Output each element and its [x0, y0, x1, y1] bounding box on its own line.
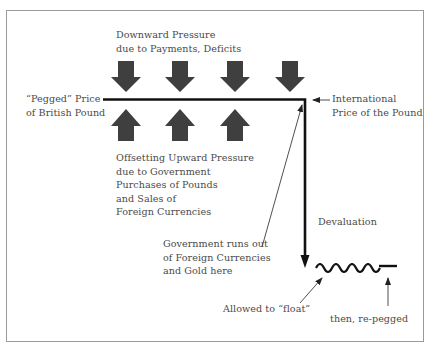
label-line: International — [332, 92, 423, 106]
label-line: then, re-pegged — [330, 312, 408, 326]
re-pegged-label: then, re-pegged — [330, 312, 408, 326]
up-arrow-icon — [165, 109, 195, 141]
label-line: Government runs out — [163, 237, 271, 251]
label-line: and Gold here — [163, 264, 271, 278]
label-line: due to Payments, Deficits — [116, 42, 241, 56]
pegged-price-label: “Pegged” Price of British Pound — [26, 92, 105, 119]
government-runs-out-label: Government runs out of Foreign Currencie… — [163, 237, 271, 278]
upward-pressure-label: Offsetting Upward Pressure due to Govern… — [116, 151, 254, 219]
devaluation-label: Devaluation — [318, 215, 377, 229]
label-line: Purchases of Pounds — [116, 178, 254, 192]
label-line: Offsetting Upward Pressure — [116, 151, 254, 165]
float-pointer — [300, 278, 322, 303]
down-arrow-icon — [220, 61, 250, 92]
label-line: Foreign Currencies — [116, 205, 254, 219]
label-line: Downward Pressure — [116, 28, 241, 42]
label-line: of Foreign Currencies — [163, 251, 271, 265]
pointer-arrows — [262, 100, 388, 306]
label-line: “Pegged” Price — [26, 92, 105, 106]
down-arrow-icon — [165, 61, 195, 92]
upward-arrows — [111, 109, 250, 141]
devaluation-arrowhead-icon — [301, 255, 310, 268]
label-line: and Sales of — [116, 192, 254, 206]
label-line: Devaluation — [318, 215, 377, 229]
downward-arrows — [111, 61, 305, 92]
allowed-to-float-label: Allowed to “float” — [223, 302, 310, 316]
label-line: due to Government — [116, 165, 254, 179]
up-arrow-icon — [220, 109, 250, 141]
down-arrow-icon — [275, 61, 305, 92]
float-wave — [316, 264, 380, 272]
label-line: Price of the Pound — [332, 106, 423, 120]
down-arrow-icon — [111, 61, 141, 92]
up-arrow-icon — [111, 109, 141, 141]
downward-pressure-label: Downward Pressure due to Payments, Defic… — [116, 28, 241, 55]
international-price-label: International Price of the Pound — [332, 92, 423, 119]
label-line: Allowed to “float” — [223, 302, 310, 316]
label-line: of British Pound — [26, 106, 105, 120]
runs-out-pointer — [262, 105, 302, 247]
